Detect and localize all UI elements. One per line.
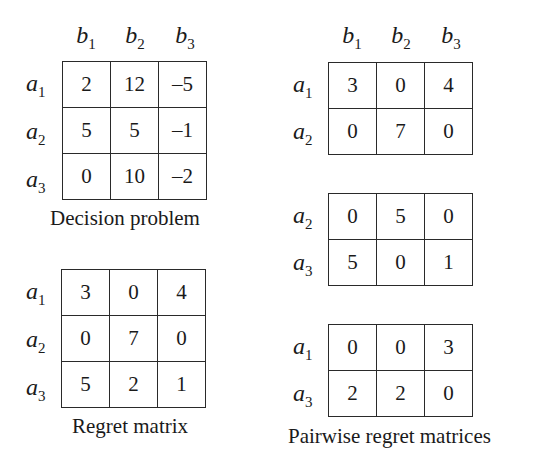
column-label-b3: b3 (427, 22, 475, 53)
cell: 2 (329, 371, 377, 417)
column-label-b2: b2 (111, 22, 159, 53)
cell: 5 (62, 362, 110, 408)
row-label-a1: a1 (26, 278, 46, 309)
column-label-b3: b3 (161, 22, 209, 53)
cell: 7 (110, 316, 158, 362)
cell: 0 (110, 270, 158, 316)
row-label-a2: a2 (293, 202, 313, 233)
cell: –1 (159, 108, 207, 154)
caption-pairwise-regret-matrices: Pairwise regret matrices (288, 424, 491, 449)
table-row: 5 0 1 (329, 240, 473, 286)
row-label-a2: a2 (26, 118, 46, 149)
row-label-a1: a1 (293, 333, 313, 364)
table-row: 2 2 0 (329, 371, 473, 417)
table-row: 0 10 –2 (63, 154, 207, 200)
table-row: 3 0 4 (62, 270, 206, 316)
row-label-a3: a3 (26, 374, 46, 405)
row-label-a3: a3 (293, 249, 313, 280)
cell: 2 (110, 362, 158, 408)
cell: 4 (158, 270, 206, 316)
cell: 0 (377, 63, 425, 109)
table-row: 0 5 0 (329, 194, 473, 240)
cell: 3 (329, 63, 377, 109)
cell: 0 (377, 325, 425, 371)
cell: 2 (63, 62, 111, 108)
cell: 1 (158, 362, 206, 408)
cell: 2 (377, 371, 425, 417)
cell: 3 (425, 325, 473, 371)
row-label-a3: a3 (293, 380, 313, 411)
cell: 1 (425, 240, 473, 286)
cell: 5 (111, 108, 159, 154)
table-row: 0 7 0 (62, 316, 206, 362)
cell: 0 (425, 194, 473, 240)
cell: 5 (329, 240, 377, 286)
table-row: 5 5 –1 (63, 108, 207, 154)
row-label-a2: a2 (293, 118, 313, 149)
cell: –2 (159, 154, 207, 200)
cell: 5 (63, 108, 111, 154)
cell: 0 (425, 371, 473, 417)
decision-problem-table: 2 12 –5 5 5 –1 0 10 –2 (62, 61, 207, 200)
pairwise-matrix-a1-a3: 0 0 3 2 2 0 (328, 324, 473, 417)
cell: 4 (425, 63, 473, 109)
cell: 5 (377, 194, 425, 240)
caption-decision-problem: Decision problem (50, 206, 200, 231)
column-label-b2: b2 (377, 22, 425, 53)
row-label-a2: a2 (26, 326, 46, 357)
caption-regret-matrix: Regret matrix (72, 414, 188, 439)
table-row: 0 7 0 (329, 109, 473, 155)
cell: 0 (62, 316, 110, 362)
cell: –5 (159, 62, 207, 108)
pairwise-matrix-a2-a3: 0 5 0 5 0 1 (328, 193, 473, 286)
cell: 7 (377, 109, 425, 155)
cell: 0 (63, 154, 111, 200)
cell: 3 (62, 270, 110, 316)
table-row: 2 12 –5 (63, 62, 207, 108)
table-row: 3 0 4 (329, 63, 473, 109)
table-row: 0 0 3 (329, 325, 473, 371)
row-label-a1: a1 (26, 70, 46, 101)
cell: 0 (329, 109, 377, 155)
cell: 10 (111, 154, 159, 200)
cell: 0 (425, 109, 473, 155)
cell: 0 (329, 194, 377, 240)
cell: 0 (377, 240, 425, 286)
cell: 0 (158, 316, 206, 362)
pairwise-matrix-a1-a2: 3 0 4 0 7 0 (328, 62, 473, 155)
cell: 0 (329, 325, 377, 371)
cell: 12 (111, 62, 159, 108)
table-row: 5 2 1 (62, 362, 206, 408)
row-label-a3: a3 (26, 166, 46, 197)
column-label-b1: b1 (62, 22, 110, 53)
column-label-b1: b1 (328, 22, 376, 53)
row-label-a1: a1 (293, 71, 313, 102)
regret-matrix-table: 3 0 4 0 7 0 5 2 1 (61, 269, 206, 408)
